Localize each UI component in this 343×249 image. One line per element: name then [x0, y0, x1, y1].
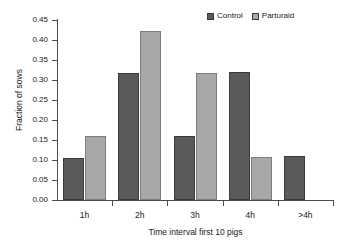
- legend-label-control: Control: [217, 12, 243, 20]
- legend-entry-parturaid: Parturaid: [252, 12, 294, 20]
- bar-control-1h: [63, 158, 84, 200]
- y-tick-label: 0.40: [24, 36, 48, 44]
- bar-control-4h: [229, 72, 250, 200]
- y-axis-title: Fraction of sows: [14, 35, 24, 165]
- bar-parturaid-2h: [140, 31, 161, 200]
- y-tick-label: 0.15: [24, 136, 48, 144]
- bar-chart-figure: Control Parturaid 0.000.050.100.150.200.…: [0, 0, 343, 249]
- chart-legend: Control Parturaid: [207, 12, 294, 20]
- legend-swatch-parturaid: [252, 13, 259, 20]
- y-tick-label: 0.05: [24, 176, 48, 184]
- y-tick-label: 0.10: [24, 156, 48, 164]
- legend-entry-control: Control: [207, 12, 243, 20]
- legend-swatch-control: [207, 13, 214, 20]
- x-tick-label-1h: 1h: [65, 211, 105, 220]
- bar-control-2h: [118, 73, 139, 200]
- x-tick-mark: [167, 201, 168, 206]
- x-axis-title: Time interval first 10 pigs: [57, 227, 334, 237]
- y-tick-label: 0.45: [24, 16, 48, 24]
- plot-area: [57, 20, 333, 200]
- y-tick-label: 0.30: [24, 76, 48, 84]
- x-tick-mark: [223, 201, 224, 206]
- legend-label-parturaid: Parturaid: [262, 12, 294, 20]
- x-tick-label-2h: 2h: [120, 211, 160, 220]
- y-tick-mark: [52, 200, 57, 201]
- x-tick-mark: [278, 201, 279, 206]
- x-axis-line: [57, 200, 334, 201]
- bar-control-3h: [174, 136, 195, 200]
- bar-parturaid-4h: [251, 157, 272, 200]
- x-tick-label-4h: 4h: [230, 211, 270, 220]
- bar-parturaid-1h: [85, 136, 106, 200]
- x-tick-mark: [112, 201, 113, 206]
- bar-control-gt4h: [284, 156, 305, 200]
- x-tick-label-gt4h: >4h: [285, 211, 325, 220]
- x-tick-label-3h: 3h: [175, 211, 215, 220]
- bar-parturaid-3h: [196, 73, 217, 200]
- x-tick-mark: [333, 201, 334, 206]
- y-tick-label: 0.25: [24, 96, 48, 104]
- y-tick-label: 0.35: [24, 56, 48, 64]
- y-tick-label: 0.00: [24, 196, 48, 204]
- y-tick-label: 0.20: [24, 116, 48, 124]
